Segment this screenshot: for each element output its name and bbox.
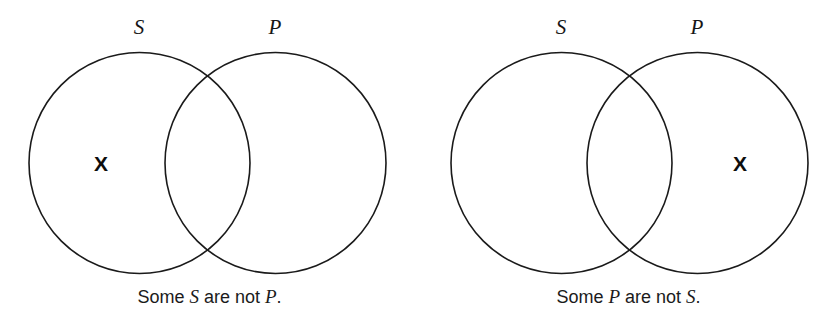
caption-left-middle: are not <box>199 287 265 307</box>
caption-right-middle: are not <box>620 287 686 307</box>
caption-left-suffix: . <box>277 287 282 307</box>
venn-figure-canvas: S P X Some S are not P. S P X Some P are… <box>0 0 838 325</box>
caption-left-subject: S <box>189 286 199 307</box>
circle-s-left <box>29 53 250 274</box>
venn-circles-right <box>419 0 838 290</box>
circle-s-right <box>451 53 672 274</box>
venn-diagram-some-s-are-not-p: S P X Some S are not P. <box>0 0 419 325</box>
set-label-s-right: S <box>556 17 567 38</box>
caption-right-prefix: Some <box>556 287 608 307</box>
caption-right-predicate: S <box>686 286 696 307</box>
circle-p-left <box>165 53 386 274</box>
caption-right: Some P are not S. <box>419 286 838 308</box>
venn-diagram-some-p-are-not-s: S P X Some P are not S. <box>419 0 838 325</box>
circle-p-right <box>587 53 808 274</box>
caption-left: Some S are not P. <box>0 286 419 308</box>
x-mark-s-only: X <box>94 153 108 174</box>
caption-left-prefix: Some <box>137 287 189 307</box>
x-mark-p-only: X <box>733 153 747 174</box>
caption-right-subject: P <box>608 286 620 307</box>
set-label-s-left: S <box>134 17 145 38</box>
set-label-p-left: P <box>268 17 281 38</box>
set-label-p-right: P <box>690 17 703 38</box>
venn-circles-left <box>0 0 419 290</box>
caption-right-suffix: . <box>696 287 701 307</box>
caption-left-predicate: P <box>265 286 277 307</box>
